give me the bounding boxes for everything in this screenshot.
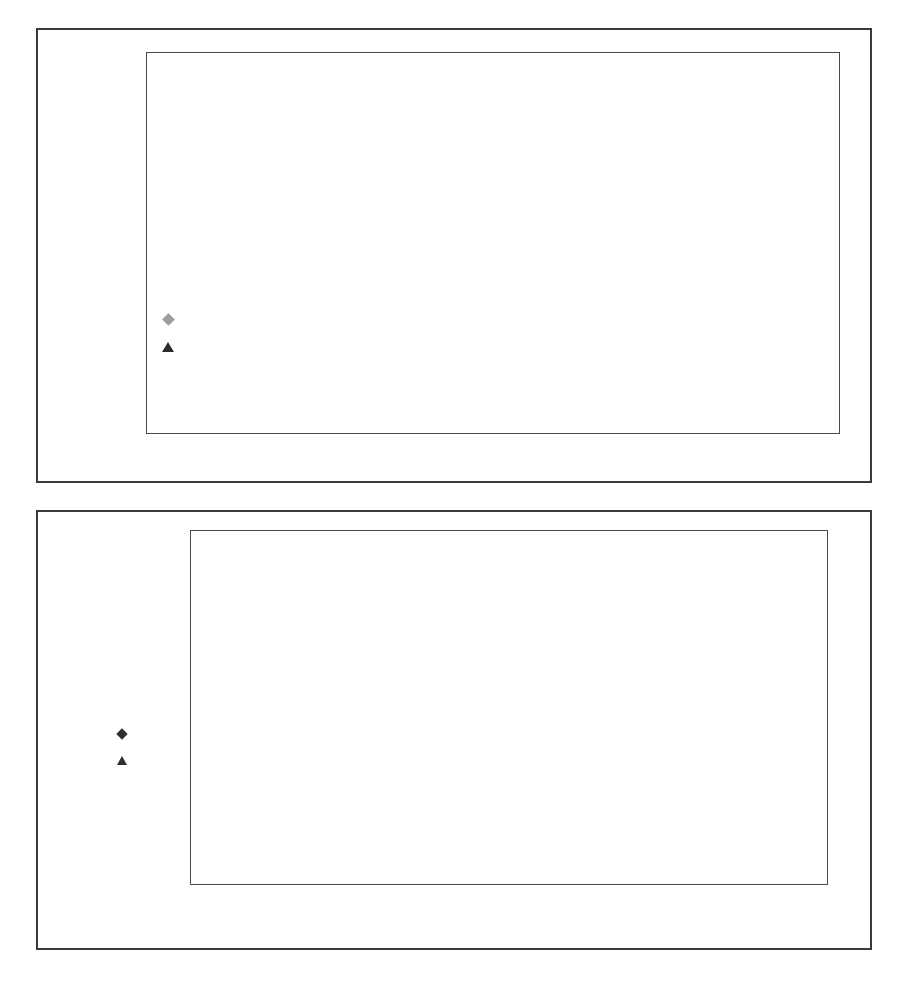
bottom-plot-canvas xyxy=(190,530,828,885)
legend-item-conc-refrig xyxy=(156,333,206,361)
triangle-marker-icon xyxy=(110,756,134,765)
chart-panel-non-concentrated xyxy=(36,510,872,950)
chart-panel-concentrated xyxy=(36,28,872,483)
diamond-marker-icon xyxy=(156,315,180,324)
bottom-plot-area xyxy=(190,530,828,885)
top-legend xyxy=(156,305,206,361)
diamond-marker-icon xyxy=(110,730,134,738)
bottom-legend xyxy=(110,720,156,774)
top-plot-canvas xyxy=(146,52,840,434)
legend-item-conc-room xyxy=(156,305,206,333)
top-plot-area xyxy=(146,52,840,434)
legend-item-nonconc-room xyxy=(110,720,156,747)
legend-item-nonconc-refrig xyxy=(110,747,156,774)
triangle-marker-icon xyxy=(156,342,180,352)
figure-root xyxy=(0,0,908,982)
